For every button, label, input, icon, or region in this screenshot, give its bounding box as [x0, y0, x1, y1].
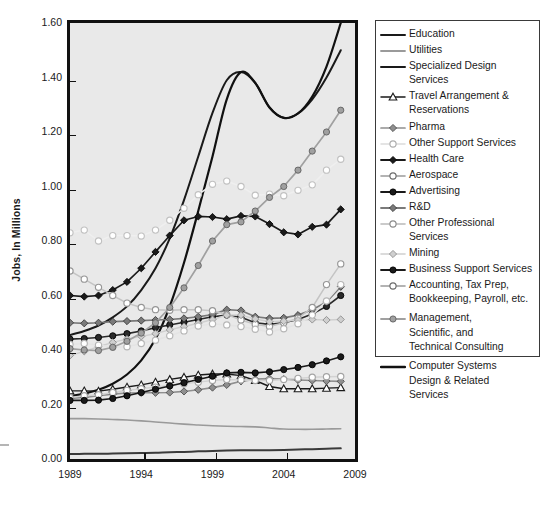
data-point-marker: [110, 232, 116, 238]
legend-item-label: Computer Systems Design & Related Servic…: [406, 359, 497, 402]
data-point-marker: [138, 304, 144, 310]
legend-item[interactable]: Management, Scientific, and Technical Co…: [380, 311, 535, 354]
legend-item[interactable]: Computer Systems Design & Related Servic…: [380, 359, 535, 402]
legend-item-label: Advertising: [406, 184, 460, 198]
scan-edge-artifact: [0, 444, 9, 446]
data-point-marker: [110, 395, 116, 401]
legend-key-swatch: [380, 43, 406, 58]
plot-area: [67, 20, 358, 462]
data-point-marker: [266, 329, 272, 335]
data-point-marker: [166, 389, 173, 396]
data-point-marker: [152, 307, 158, 313]
data-point-marker: [252, 370, 258, 376]
legend-item[interactable]: Accounting, Tax Prep, Bookkeeping, Payro…: [380, 278, 535, 307]
data-point-marker: [389, 205, 396, 212]
data-point-marker: [309, 362, 315, 368]
data-point-marker: [323, 298, 329, 304]
x-tick-label: 1989: [40, 468, 100, 480]
data-point-marker: [138, 330, 144, 336]
data-point-marker: [390, 189, 396, 195]
data-point-marker: [323, 282, 329, 288]
data-point-marker: [309, 374, 315, 380]
legend-item[interactable]: Aerospace: [380, 168, 535, 183]
data-point-marker: [138, 233, 144, 239]
legend-item[interactable]: Advertising: [380, 184, 535, 199]
legend-key-swatch: [380, 184, 406, 199]
data-point-marker: [389, 125, 396, 132]
data-point-marker: [124, 232, 130, 238]
data-point-marker: [323, 129, 329, 135]
data-point-marker: [309, 148, 315, 154]
data-point-marker: [70, 346, 73, 352]
data-point-marker: [252, 208, 258, 214]
legend-key-swatch: [380, 89, 406, 104]
data-point-marker: [295, 167, 301, 173]
legend-item-label: Accounting, Tax Prep, Bookkeeping, Payro…: [406, 278, 528, 307]
legend-item[interactable]: Health Care: [380, 152, 535, 167]
data-point-marker: [281, 367, 287, 373]
x-tick-label: 1999: [183, 468, 243, 480]
legend-item-label: Pharma: [406, 120, 445, 134]
data-point-marker: [81, 227, 87, 233]
legend-key-swatch: [380, 359, 406, 374]
legend-key-swatch: [380, 152, 406, 167]
data-point-marker: [209, 384, 216, 391]
legend-item[interactable]: Mining: [380, 246, 535, 261]
legend-item[interactable]: Pharma: [380, 120, 535, 135]
data-point-marker: [295, 375, 301, 381]
data-point-marker: [266, 377, 272, 383]
data-point-marker: [124, 338, 130, 344]
legend-item[interactable]: R&D: [380, 200, 535, 215]
data-point-marker: [224, 178, 230, 184]
data-point-marker: [152, 386, 158, 392]
data-point-marker: [195, 262, 201, 268]
legend-item[interactable]: Other Support Services: [380, 136, 535, 151]
data-point-marker: [266, 369, 272, 375]
data-point-marker: [70, 268, 73, 274]
data-point-marker: [181, 285, 187, 291]
data-point-marker: [81, 397, 87, 403]
data-point-marker: [252, 326, 258, 332]
y-tick-mark: [70, 190, 76, 191]
legend-item[interactable]: Other Professional Services: [380, 216, 535, 245]
data-point-marker: [252, 192, 258, 198]
legend-item[interactable]: Travel Arrangement & Reservations: [380, 89, 535, 118]
data-point-marker: [224, 370, 230, 376]
data-point-marker: [95, 347, 101, 353]
data-point-marker: [389, 250, 396, 257]
data-point-marker: [295, 364, 301, 370]
data-point-marker: [337, 316, 344, 323]
x-tick-mark: [216, 453, 217, 459]
data-point-marker: [281, 193, 287, 199]
data-point-marker: [152, 337, 158, 343]
data-point-marker: [95, 292, 102, 299]
series-line: [70, 23, 341, 396]
data-point-marker: [110, 333, 116, 339]
data-point-marker: [238, 369, 244, 375]
legend-item[interactable]: Business Support Services: [380, 262, 535, 277]
series-aerospace: [70, 156, 344, 244]
legend-item-label: Management, Scientific, and Technical Co…: [406, 311, 503, 354]
data-point-marker: [390, 141, 396, 147]
legend-item[interactable]: Specialized Design Services: [380, 59, 535, 88]
data-point-marker: [294, 231, 301, 238]
data-point-marker: [152, 227, 158, 233]
y-tick-mark: [70, 353, 76, 354]
chart-figure: Jobs, In Millions 1.601.401.201.000.800.…: [0, 0, 544, 512]
data-point-marker: [295, 187, 301, 193]
legend-item-label: Education: [406, 27, 455, 41]
data-point-marker: [195, 307, 201, 313]
data-point-marker: [209, 181, 215, 187]
data-point-marker: [281, 326, 287, 332]
y-tick-mark: [70, 81, 76, 82]
data-point-marker: [390, 316, 396, 322]
legend-item-label: Specialized Design Services: [406, 59, 535, 88]
data-point-marker: [124, 393, 130, 399]
data-point-marker: [70, 230, 73, 236]
data-point-marker: [209, 373, 215, 379]
legend-item[interactable]: Utilities: [380, 43, 535, 58]
series-line: [70, 419, 341, 430]
data-point-marker: [95, 284, 101, 290]
data-point-marker: [181, 205, 187, 211]
legend-item[interactable]: Education: [380, 27, 535, 42]
